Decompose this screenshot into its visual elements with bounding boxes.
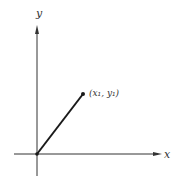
y-axis-arrow-icon — [35, 25, 39, 34]
origin-dot — [35, 152, 39, 156]
coordinate-diagram: y x (x₁, y₁) — [0, 0, 196, 182]
point-dot — [81, 92, 85, 96]
y-axis-label: y — [35, 7, 43, 20]
vector-line — [37, 94, 83, 154]
x-axis-arrow-icon — [153, 152, 162, 156]
x-axis-label: x — [164, 148, 171, 161]
point-label: (x₁, y₁) — [89, 88, 120, 98]
